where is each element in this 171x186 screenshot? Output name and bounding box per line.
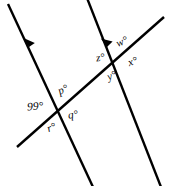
left-parallel-line — [8, 4, 93, 186]
diagram-canvas — [0, 0, 171, 186]
right-line-arrow-icon — [101, 39, 113, 47]
angle-label-z: z° — [95, 51, 105, 63]
geometry-diagram: 99° p° q° r° w° z° x° y° — [0, 0, 171, 186]
angle-label-99: 99° — [27, 101, 44, 113]
transversal-line — [17, 17, 164, 147]
angle-label-q: q° — [67, 108, 78, 120]
